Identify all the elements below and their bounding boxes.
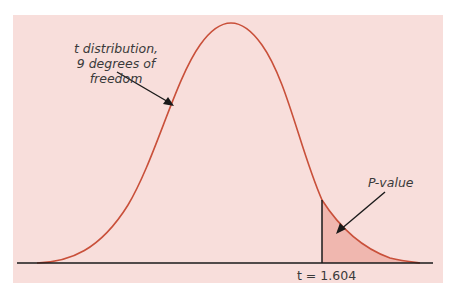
curve-label-line1: t distribution, — [56, 41, 176, 56]
p-value-label: P-value — [368, 175, 414, 190]
curve-label-line2: 9 degrees of freedom — [56, 56, 176, 86]
p-value-arrow — [336, 192, 385, 234]
p-value-shaded-region — [322, 200, 420, 263]
t-value-label: t = 1.604 — [297, 268, 356, 283]
curve-label: t distribution, 9 degrees of freedom — [56, 41, 176, 86]
